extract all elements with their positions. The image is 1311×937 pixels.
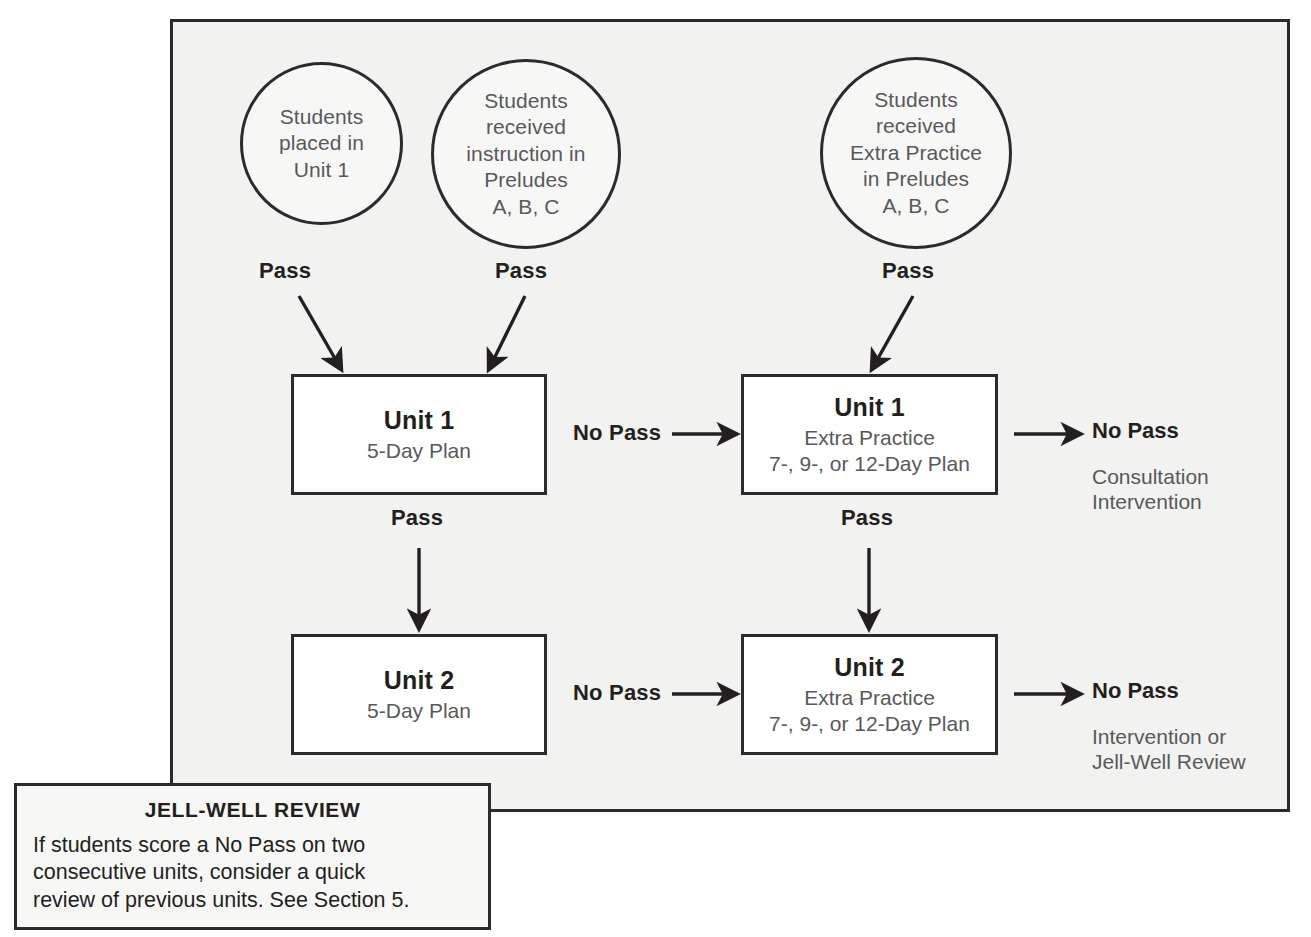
box-title: Unit 2 xyxy=(384,666,455,695)
outcome-body: Intervention or Jell-Well Review xyxy=(1092,724,1246,775)
box-title: Unit 2 xyxy=(834,653,905,682)
outcome-unit-2-no-pass: No Pass Intervention or Jell-Well Review xyxy=(1092,658,1246,795)
edge-label-unit-1-ep-pass-down: Pass xyxy=(841,505,893,531)
outcome-heading: No Pass xyxy=(1092,418,1209,445)
box-unit-1-extra-practice: Unit 1 Extra Practice 7-, 9-, or 12-Day … xyxy=(741,374,998,495)
callout-title: JELL-WELL REVIEW xyxy=(33,798,472,822)
callout-body: If students score a No Pass on two conse… xyxy=(33,832,472,914)
box-unit-2-extra-practice: Unit 2 Extra Practice 7-, 9-, or 12-Day … xyxy=(741,634,998,755)
edge-label-unit-1-pass-down: Pass xyxy=(391,505,443,531)
box-title: Unit 1 xyxy=(834,393,905,422)
callout-jell-well-review: JELL-WELL REVIEW If students score a No … xyxy=(14,783,491,930)
edge-label-unit-2-no-pass: No Pass xyxy=(573,680,661,706)
circle-students-received-instruction: Students received instruction in Prelude… xyxy=(431,59,621,249)
edge-label-pass-from-placed: Pass xyxy=(259,258,311,284)
outcome-body: Consultation Intervention xyxy=(1092,464,1209,515)
outcome-unit-1-no-pass: No Pass Consultation Intervention xyxy=(1092,398,1209,535)
edge-label-pass-from-instruction: Pass xyxy=(495,258,547,284)
circle-label: Students received Extra Practice in Prel… xyxy=(842,87,990,219)
edge-label-unit-1-no-pass: No Pass xyxy=(573,420,661,446)
outcome-heading: No Pass xyxy=(1092,678,1246,705)
circle-students-received-extra-practice: Students received Extra Practice in Prel… xyxy=(820,57,1012,249)
box-unit-2-plan: Unit 2 5-Day Plan xyxy=(291,634,547,755)
circle-label: Students received instruction in Prelude… xyxy=(458,88,593,220)
box-subtitle: 5-Day Plan xyxy=(367,698,471,723)
box-unit-1-plan: Unit 1 5-Day Plan xyxy=(291,374,547,495)
box-subtitle: Extra Practice 7-, 9-, or 12-Day Plan xyxy=(769,425,970,475)
edge-label-pass-from-extra-practice: Pass xyxy=(882,258,934,284)
circle-label: Students placed in Unit 1 xyxy=(271,104,372,183)
circle-students-placed-unit-1: Students placed in Unit 1 xyxy=(240,62,403,225)
box-subtitle: Extra Practice 7-, 9-, or 12-Day Plan xyxy=(769,685,970,735)
box-subtitle: 5-Day Plan xyxy=(367,438,471,463)
box-title: Unit 1 xyxy=(384,406,455,435)
